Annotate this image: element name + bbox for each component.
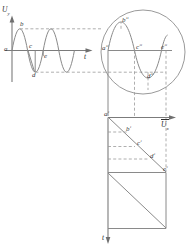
figure-vector-layer	[0, 0, 187, 250]
sawtooth-t-axis-label: t	[102, 234, 104, 242]
sawtooth-t-axis-arrowhead	[106, 237, 111, 244]
point-label-a-double-prime: aʺ	[102, 45, 108, 52]
point-label-b-double-prime: bʺ	[122, 17, 128, 24]
point-label-d-double-prime: dʺ	[147, 73, 153, 80]
figure-canvas: Uy t a b c d e aʺ bʺ cʺ dʺ eʺ Ux aʹ bʹ c…	[0, 0, 187, 250]
crt-screen-circle-outline	[101, 10, 185, 94]
sawtooth-ramp-2	[108, 173, 166, 228]
point-label-e-prime: eʹ	[163, 166, 168, 173]
point-label-c: c	[29, 43, 32, 50]
point-label-b: b	[20, 21, 24, 28]
sweep-x-axis-arrowhead	[169, 115, 176, 120]
point-label-c-double-prime: cʺ	[136, 44, 142, 51]
sweep-x-axis-label: Ux	[161, 121, 169, 131]
point-label-d: d	[32, 72, 36, 79]
left-t-axis-arrowhead	[86, 48, 93, 53]
left-y-axis-label: Uy	[2, 6, 10, 16]
left-y-axis-arrowhead	[10, 16, 15, 23]
crt-screen-group	[101, 10, 185, 116]
sawtooth-plot-group	[106, 173, 166, 245]
point-label-a-prime: aʹ	[104, 111, 109, 118]
point-label-d-prime: dʹ	[150, 153, 155, 160]
point-label-c-prime: cʹ	[137, 140, 142, 147]
left-t-axis-label: t	[84, 53, 86, 61]
point-label-e-double-prime: eʺ	[161, 44, 167, 51]
point-label-e: e	[44, 53, 47, 60]
point-label-b-prime: bʹ	[126, 126, 131, 133]
point-label-a: a	[4, 46, 8, 53]
tick-c-vertical	[28, 51, 35, 73]
